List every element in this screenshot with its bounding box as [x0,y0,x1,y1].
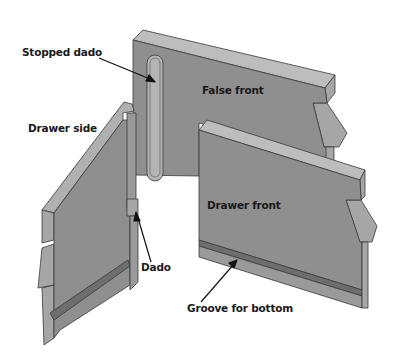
drawer-front-panel [199,120,377,308]
label-groove-for-bottom: Groove for bottom [187,302,293,314]
label-drawer-front: Drawer front [207,199,281,211]
dado-channel [127,113,136,208]
label-false-front: False front [202,84,264,96]
label-stopped-dado: Stopped dado [22,46,102,58]
drawer-side-back-edge [130,216,138,290]
label-dado: Dado [141,261,171,273]
stopped-dado-slot [147,55,163,181]
label-drawer-side: Drawer side [28,122,97,134]
drawer-side-panel [38,102,138,345]
drawer-side-pin [38,244,54,288]
dado-arrow [138,218,151,262]
drawer-front-lower-stub [362,242,368,308]
drawer-side-end [42,210,54,243]
groove-arrow [201,264,234,302]
